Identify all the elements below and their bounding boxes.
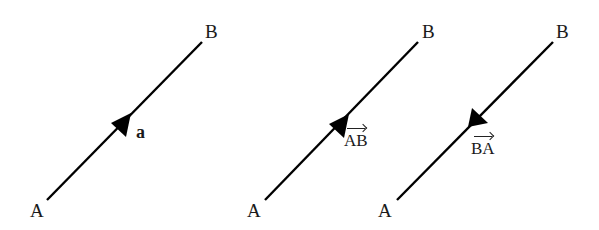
point-label-b-1: B (205, 22, 218, 41)
vector-label-ba: BA (471, 132, 495, 157)
point-label-b-3: B (556, 22, 569, 41)
diagram-vector-a (47, 42, 202, 200)
vector-label-a: a (136, 123, 145, 141)
point-label-a-3: A (378, 201, 392, 220)
diagram-vector-AB (265, 42, 418, 200)
vector-label-ab: AB (344, 124, 368, 149)
point-label-a-1: A (30, 201, 44, 220)
overarrow-icon (471, 132, 495, 140)
diagram-vector-BA (397, 42, 553, 200)
point-label-b-2: B (422, 22, 435, 41)
vector-diagrams-canvas (0, 0, 599, 230)
vector-label-ba-text: BA (471, 139, 495, 158)
vector-label-ab-text: AB (344, 131, 368, 150)
overarrow-icon (344, 124, 368, 132)
point-label-a-2: A (247, 201, 261, 220)
